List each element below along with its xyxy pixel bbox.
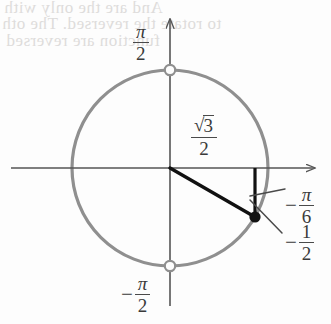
square-root-icon: √3 [194,115,214,136]
denominator: 2 [133,43,149,63]
radius-segment [170,168,255,217]
minus-sign: − [121,284,133,306]
label-neg-1-over-2: − 1 2 [285,222,314,263]
numerator: π [133,22,149,43]
label-sqrt3-over-2: √3 2 [191,115,217,158]
numerator: √3 [191,115,217,138]
denominator: 2 [135,295,151,315]
fraction-pi-over-2: π 2 [135,274,151,315]
minus-sign: − [285,195,297,217]
label-neg-pi-over-2: − π 2 [121,274,150,315]
numerator: π [135,274,151,295]
label-neg-pi-over-6: − π 6 [285,185,314,226]
terminal-point-dot[interactable] [249,211,260,222]
fraction-pi-over-6: π 6 [299,185,315,226]
denominator: 2 [196,138,212,158]
numerator: 1 [299,222,315,243]
bottom-intercept-marker-icon [165,261,175,271]
fraction-sqrt3-over-2: √3 2 [191,115,217,158]
label-pi-over-2: π 2 [133,22,149,63]
unit-circle-figure: And are the only with to rotate the reve… [0,0,331,324]
top-intercept-marker-icon [165,65,175,75]
fraction-pi-over-2: π 2 [133,22,149,63]
fraction-1-over-2: 1 2 [299,222,315,263]
minus-sign: − [285,232,297,254]
denominator: 2 [299,243,315,263]
diagram-canvas [0,0,331,324]
radicand: 3 [203,115,214,136]
numerator: π [299,185,315,206]
